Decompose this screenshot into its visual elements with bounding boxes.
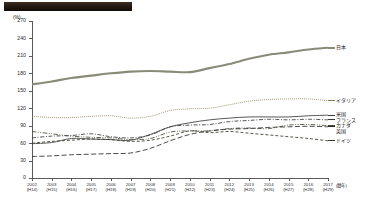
- x-axis-tick-label: 2008(H20): [145, 182, 156, 192]
- y-axis-tick-label: 0: [0, 175, 26, 180]
- y-axis-tick-label: 90: [0, 123, 26, 128]
- redacted-title-bar: [4, 2, 132, 11]
- series-lines: [32, 21, 328, 178]
- series-leader-6: [328, 140, 335, 141]
- x-axis-tick: [71, 178, 72, 181]
- x-axis-tick-label: 2007(H19): [125, 182, 136, 192]
- x-label-era: (H15): [46, 187, 57, 192]
- x-label-era: (H16): [66, 187, 77, 192]
- x-axis-line: [32, 178, 328, 179]
- x-label-era: (H29): [323, 187, 334, 192]
- series-leader-1: [328, 100, 335, 101]
- y-axis-tick-label: 270: [0, 18, 26, 23]
- y-axis-tick-label: 30: [0, 158, 26, 163]
- series-label-1: イタリア: [336, 98, 356, 103]
- y-axis-tick-label: 60: [0, 141, 26, 146]
- y-axis-tick: [29, 38, 32, 39]
- x-axis-tick: [91, 178, 92, 181]
- x-axis-tick: [210, 178, 211, 181]
- x-label-era: (H21): [165, 187, 176, 192]
- x-axis-tick-label: 2002(H14): [27, 182, 38, 192]
- y-axis-tick: [29, 21, 32, 22]
- series-leader-2: [328, 115, 335, 116]
- x-label-era: (H28): [303, 187, 314, 192]
- x-axis-tick-label: 2017(H29): [323, 182, 334, 192]
- x-axis-tick: [150, 178, 151, 181]
- x-axis-tick: [32, 178, 33, 181]
- calendar-year-note: (暦年): [336, 182, 347, 188]
- series-label-6: ドイツ: [336, 138, 351, 143]
- x-label-era: (H23): [204, 187, 215, 192]
- plot-area: [32, 21, 328, 178]
- x-axis-tick: [111, 178, 112, 181]
- y-axis-tick-label: 210: [0, 53, 26, 58]
- y-axis-tick: [29, 56, 32, 57]
- x-axis-tick-label: 2009(H21): [165, 182, 176, 192]
- y-axis-tick-label: 180: [0, 71, 26, 76]
- x-axis-tick-label: 2012(H24): [224, 182, 235, 192]
- line-series-0: [32, 48, 328, 85]
- x-label-era: (H17): [86, 187, 97, 192]
- x-axis-tick: [249, 178, 250, 181]
- x-axis-tick: [229, 178, 230, 181]
- x-axis-tick-label: 2013(H25): [244, 182, 255, 192]
- x-axis-tick-label: 2003(H15): [46, 182, 57, 192]
- y-axis-tick-label: 240: [0, 36, 26, 41]
- x-axis-tick: [308, 178, 309, 181]
- y-axis-tick-label: 120: [0, 106, 26, 111]
- y-axis-tick: [29, 91, 32, 92]
- x-axis-tick-label: 2010(H22): [184, 182, 195, 192]
- x-axis-tick: [170, 178, 171, 181]
- y-axis-tick: [29, 143, 32, 144]
- y-axis-tick: [29, 161, 32, 162]
- x-label-era: (H14): [27, 187, 38, 192]
- y-axis-tick: [29, 73, 32, 74]
- x-axis-tick: [289, 178, 290, 181]
- x-axis-tick-label: 2016(H28): [303, 182, 314, 192]
- series-leader-0: [328, 47, 335, 49]
- series-label-5: 英国: [336, 129, 346, 134]
- x-label-era: (H19): [125, 187, 136, 192]
- chart-page: (%) 0306090120150180210240270 2002(H14)2…: [0, 0, 371, 207]
- x-label-era: (H26): [263, 187, 274, 192]
- series-leader-3: [328, 119, 335, 120]
- x-label-era: (H18): [106, 187, 117, 192]
- y-axis-tick: [29, 126, 32, 127]
- line-series-1: [32, 99, 328, 118]
- x-axis-tick-label: 2014(H26): [263, 182, 274, 192]
- x-label-era: (H20): [145, 187, 156, 192]
- series-label-0: 日本: [336, 45, 346, 50]
- x-axis-tick-label: 2011(H23): [204, 182, 215, 192]
- y-axis-tick-label: 150: [0, 88, 26, 93]
- x-axis-tick: [52, 178, 53, 181]
- x-axis-tick: [269, 178, 270, 181]
- x-axis-tick: [190, 178, 191, 181]
- x-label-era: (H24): [224, 187, 235, 192]
- x-axis-tick-label: 2004(H16): [66, 182, 77, 192]
- line-series-3: [32, 119, 328, 138]
- x-axis-tick: [131, 178, 132, 181]
- x-label-era: (H22): [184, 187, 195, 192]
- x-axis-tick-label: 2015(H27): [283, 182, 294, 192]
- x-axis-tick-label: 2006(H18): [106, 182, 117, 192]
- x-axis-tick: [328, 178, 329, 181]
- x-axis-tick-label: 2005(H17): [86, 182, 97, 192]
- series-leader-5: [328, 126, 335, 127]
- y-axis-tick: [29, 108, 32, 109]
- x-label-era: (H27): [283, 187, 294, 192]
- x-label-era: (H25): [244, 187, 255, 192]
